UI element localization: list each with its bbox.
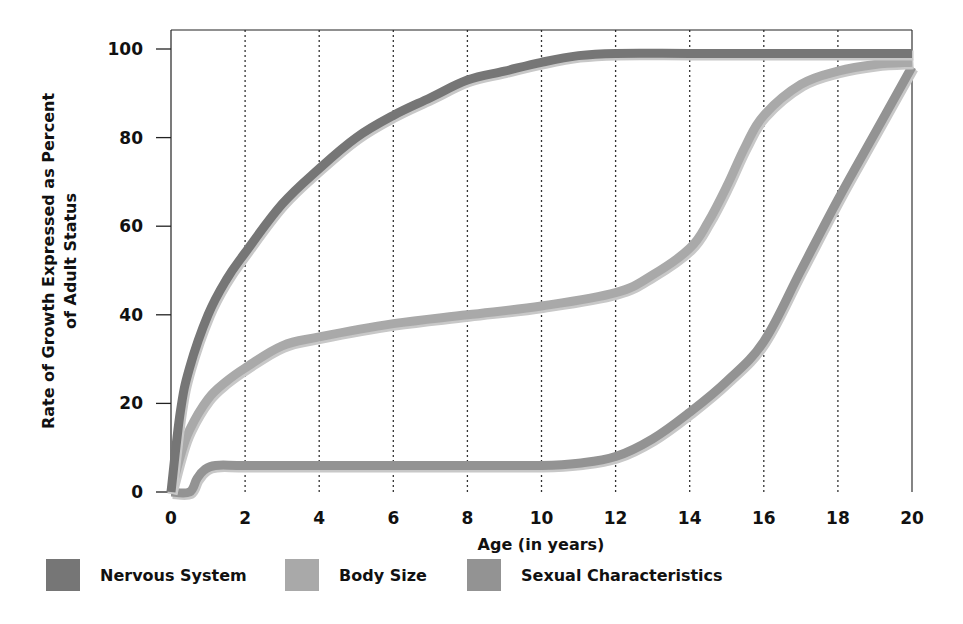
x-tick-label: 4 <box>313 508 325 528</box>
y-tick-label: 80 <box>119 128 143 148</box>
legend-label: Body Size <box>339 566 427 585</box>
y-axis-title-line1: Rate of Growth Expressed as Percent <box>39 93 58 430</box>
legend-item-nervous-system: Nervous System <box>46 559 285 591</box>
y-tick-label: 100 <box>108 39 144 59</box>
x-tick-label: 16 <box>752 508 776 528</box>
x-tick-label: 0 <box>165 508 177 528</box>
y-tick-label: 60 <box>119 216 143 236</box>
y-axis-title-line2: of Adult Status <box>61 193 80 329</box>
data-series <box>171 53 914 495</box>
legend-item-sexual-characteristics: Sexual Characteristics <box>467 559 723 591</box>
x-axis-ticks: 02468101214161820 <box>165 508 924 528</box>
legend-swatch-body-size <box>285 559 319 591</box>
y-tick-label: 20 <box>119 393 143 413</box>
vertical-gridlines <box>245 30 838 492</box>
y-axis-title: Rate of Growth Expressed as Percent of A… <box>39 93 80 430</box>
legend-label: Nervous System <box>100 566 247 585</box>
y-tick-label: 0 <box>131 482 143 502</box>
x-axis-title: Age (in years) <box>478 535 605 554</box>
x-tick-label: 6 <box>387 508 399 528</box>
y-axis-ticks: 020406080100 <box>108 39 172 502</box>
x-tick-label: 12 <box>604 508 628 528</box>
legend-swatch-nervous-system <box>46 559 80 591</box>
x-tick-label: 14 <box>678 508 702 528</box>
legend-label: Sexual Characteristics <box>521 566 723 585</box>
growth-chart: 020406080100 02468101214161820 Age (in y… <box>0 0 963 624</box>
legend-swatch-sexual-characteristics <box>467 559 501 591</box>
x-tick-label: 8 <box>461 508 473 528</box>
x-tick-label: 20 <box>900 508 924 528</box>
legend-item-body-size: Body Size <box>285 559 449 591</box>
legend: Nervous System Body Size Sexual Characte… <box>46 558 741 592</box>
x-tick-label: 18 <box>826 508 850 528</box>
y-tick-label: 40 <box>119 305 143 325</box>
x-tick-label: 10 <box>530 508 554 528</box>
x-tick-label: 2 <box>239 508 251 528</box>
